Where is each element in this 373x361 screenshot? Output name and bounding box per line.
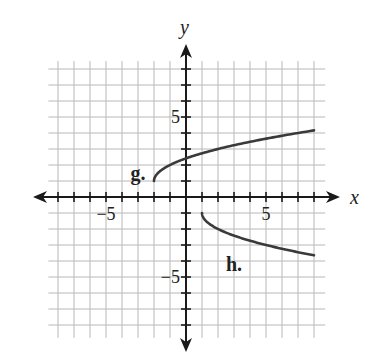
curve-h — [202, 213, 314, 255]
x-axis-label: x — [349, 186, 359, 208]
x-tick-label: −5 — [96, 204, 115, 224]
coordinate-plane: x y −555−5g.h. — [0, 0, 373, 361]
labels: x y −555−5g.h. — [96, 16, 359, 287]
axes — [33, 44, 340, 352]
y-tick-label: 5 — [171, 107, 180, 127]
x-tick-label: 5 — [262, 204, 271, 224]
curve-label-h: h. — [226, 253, 242, 275]
curve-label-g: g. — [131, 162, 146, 185]
y-axis-label: y — [178, 16, 189, 39]
y-tick-label: −5 — [161, 267, 180, 287]
